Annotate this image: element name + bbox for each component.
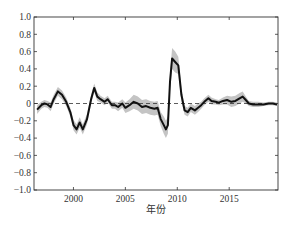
x-axis-title: 年份	[146, 203, 166, 215]
x-tick-label: 2005	[116, 194, 135, 204]
y-tick-label: 1.0	[19, 12, 31, 22]
y-tick-label: 0.8	[19, 30, 31, 40]
y-tick-label: 0.2	[19, 82, 31, 92]
x-tick-label: 2000	[64, 194, 83, 204]
y-tick-label: −0.2	[14, 116, 31, 126]
y-tick-label: −0.8	[14, 168, 31, 178]
y-tick-label: −0.6	[14, 151, 31, 161]
x-tick-label: 2010	[168, 194, 187, 204]
y-tick-label: 0.4	[19, 64, 31, 74]
chart-figure: −1.0−0.8−0.6−0.4−0.200.20.40.60.81.0 200…	[0, 0, 291, 227]
y-tick-label: 0.6	[19, 47, 31, 57]
y-tick-label: −1.0	[14, 185, 31, 195]
y-tick-label: 0	[26, 99, 31, 109]
x-tick-label: 2015	[220, 194, 239, 204]
y-tick-label: −0.4	[14, 133, 31, 143]
